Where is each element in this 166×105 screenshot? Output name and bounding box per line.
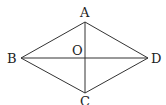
label-O: O bbox=[72, 43, 83, 58]
rhombus-diagram: A B O D C bbox=[0, 0, 166, 105]
label-D: D bbox=[151, 51, 161, 66]
label-A: A bbox=[79, 5, 90, 20]
label-C: C bbox=[80, 94, 90, 105]
label-B: B bbox=[7, 51, 17, 66]
